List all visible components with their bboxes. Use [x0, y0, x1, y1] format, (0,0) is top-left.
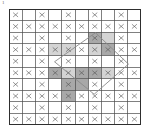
cell-x-marker-icon: [27, 117, 31, 121]
cell-x-marker-icon: [66, 106, 70, 110]
cell-x-marker-icon: [40, 106, 44, 110]
cell-x-marker-icon: [13, 117, 17, 121]
cell-x-marker-icon: [13, 94, 17, 98]
cell-x-marker-icon: [40, 94, 44, 98]
cell-x-marker-icon: [119, 117, 123, 121]
cell-x-marker-icon: [119, 59, 123, 63]
cell-x-marker-icon: [132, 71, 136, 75]
cell-x-marker-icon: [40, 36, 44, 40]
cell-x-marker-icon: [40, 59, 44, 63]
cell-x-marker-icon: [27, 94, 31, 98]
cell-x-marker-icon: [40, 13, 44, 17]
cell-x-marker-icon: [119, 106, 123, 110]
cell-x-marker-icon: [93, 13, 97, 17]
cell-x-marker-icon: [13, 59, 17, 63]
cell-x-marker-icon: [13, 36, 17, 40]
cell-x-marker-icon: [93, 117, 97, 121]
cell-x-marker-icon: [27, 71, 31, 75]
cell-x-marker-icon: [79, 48, 83, 52]
cell-x-marker-icon: [13, 71, 17, 75]
grid-plot-area: [9, 9, 141, 125]
cell-x-marker-icon: [13, 24, 17, 28]
cell-x-marker-icon: [93, 24, 97, 28]
cell-x-marker-icon: [13, 106, 17, 110]
cell-x-marker-icon: [40, 117, 44, 121]
corner-label: 1: [2, 0, 5, 6]
cell-x-marker-icon: [132, 117, 136, 121]
cell-x-marker-icon: [79, 94, 83, 98]
cell-x-marker-icon: [79, 117, 83, 121]
grid-cell-shaded: [101, 32, 114, 44]
cell-x-marker-icon: [106, 24, 110, 28]
cell-x-marker-icon: [119, 36, 123, 40]
figure-root: 1: [0, 0, 151, 131]
cell-x-marker-icon: [132, 48, 136, 52]
cell-x-marker-icon: [53, 94, 57, 98]
cell-x-marker-icon: [40, 82, 44, 86]
cell-x-marker-icon: [119, 94, 123, 98]
cell-x-marker-icon: [66, 59, 70, 63]
cell-x-marker-icon: [53, 117, 57, 121]
cell-x-marker-icon: [66, 24, 70, 28]
cell-x-marker-icon: [13, 82, 17, 86]
cell-x-marker-icon: [66, 13, 70, 17]
cell-x-marker-icon: [40, 71, 44, 75]
cell-x-marker-icon: [119, 13, 123, 17]
cell-x-marker-icon: [106, 117, 110, 121]
cell-x-marker-icon: [93, 94, 97, 98]
cell-x-marker-icon: [106, 94, 110, 98]
cell-x-marker-icon: [53, 24, 57, 28]
cell-x-marker-icon: [66, 117, 70, 121]
cell-x-marker-icon: [119, 48, 123, 52]
cell-x-marker-icon: [119, 24, 123, 28]
cell-x-marker-icon: [93, 82, 97, 86]
cell-x-marker-icon: [79, 24, 83, 28]
cell-x-marker-icon: [119, 82, 123, 86]
cell-x-marker-icon: [40, 48, 44, 52]
cell-x-marker-icon: [66, 36, 70, 40]
cell-x-marker-icon: [93, 59, 97, 63]
cell-x-marker-icon: [40, 24, 44, 28]
cell-x-marker-icon: [13, 48, 17, 52]
cell-x-marker-icon: [132, 94, 136, 98]
cell-x-marker-icon: [93, 106, 97, 110]
cell-x-marker-icon: [27, 48, 31, 52]
cell-x-marker-icon: [13, 13, 17, 17]
cell-x-marker-icon: [27, 24, 31, 28]
grid-svg: [9, 9, 141, 125]
cell-x-marker-icon: [132, 24, 136, 28]
